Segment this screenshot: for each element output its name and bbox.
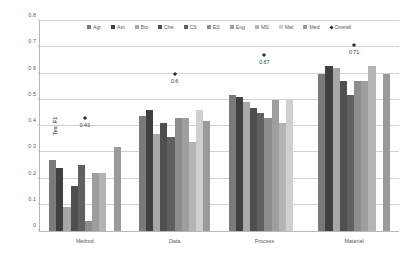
bar xyxy=(85,221,92,232)
bar xyxy=(139,116,146,232)
y-axis-tick-label: 0.7 xyxy=(28,38,36,44)
bar xyxy=(340,81,347,231)
legend-swatch-icon xyxy=(111,25,115,29)
legend-item[interactable]: Ast xyxy=(111,24,125,30)
bar-chart: Test F1 00.10.20.30.40.50.60.70.8 0.43Me… xyxy=(0,0,406,262)
bar-groups: 0.43Method0.6Data0.67Process0.71Material xyxy=(40,21,399,231)
plot-area: Test F1 00.10.20.30.40.50.60.70.8 0.43Me… xyxy=(39,21,399,232)
y-axis-tick-label: 0.3 xyxy=(28,143,36,149)
legend-label: ES xyxy=(213,24,220,30)
bar xyxy=(383,74,390,232)
legend-label: Bio xyxy=(141,24,149,30)
overall-value-label: 0.6 xyxy=(171,78,179,84)
bar xyxy=(272,100,279,231)
legend-label: Eng xyxy=(236,24,245,30)
bar xyxy=(229,95,236,232)
legend-label: Overall xyxy=(335,24,351,30)
legend-label: MS xyxy=(261,24,269,30)
bar xyxy=(279,123,286,231)
bar xyxy=(153,134,160,231)
bar-group: 0.43Method xyxy=(40,21,130,231)
bar xyxy=(196,110,203,231)
legend-swatch-icon xyxy=(303,25,307,29)
x-axis-category-label: Method xyxy=(40,238,130,244)
legend-diamond-icon xyxy=(329,25,333,29)
bar xyxy=(56,168,63,231)
bar xyxy=(203,121,210,231)
bar-group: 0.67Process xyxy=(220,21,310,231)
bar xyxy=(257,113,264,231)
bar xyxy=(146,110,153,231)
legend-item[interactable]: MS xyxy=(255,24,269,30)
x-axis-category-label: Material xyxy=(309,238,399,244)
bar xyxy=(236,97,243,231)
x-axis-category-label: Process xyxy=(220,238,310,244)
x-axis-category-label: Data xyxy=(130,238,220,244)
bar xyxy=(182,118,189,231)
bar xyxy=(354,81,361,231)
y-axis-tick-label: 0.1 xyxy=(28,196,36,202)
bar xyxy=(63,207,70,231)
y-axis-tick-label: 0.2 xyxy=(28,170,36,176)
legend-item[interactable]: ES xyxy=(207,24,220,30)
legend-swatch-icon xyxy=(87,25,91,29)
y-axis-tick-label: 0 xyxy=(33,222,36,228)
overall-value-label: 0.67 xyxy=(259,59,270,65)
bar xyxy=(286,100,293,231)
y-axis-tick-label: 0.8 xyxy=(28,12,36,18)
y-axis-tick-label: 0.4 xyxy=(28,117,36,123)
legend-swatch-icon xyxy=(207,25,211,29)
bar xyxy=(347,95,354,232)
bar xyxy=(167,137,174,232)
legend-label: Agr xyxy=(93,24,101,30)
bar-group: 0.6Data xyxy=(130,21,220,231)
legend-item[interactable]: Che xyxy=(158,24,174,30)
bar xyxy=(189,142,196,231)
overall-value-label: 0.43 xyxy=(80,122,91,128)
bar xyxy=(318,74,325,232)
legend-swatch-icon xyxy=(184,25,188,29)
bar xyxy=(250,108,257,231)
bar xyxy=(333,68,340,231)
y-axis-tick-label: 0.5 xyxy=(28,91,36,97)
bar xyxy=(99,173,106,231)
legend-item[interactable]: Mat xyxy=(279,24,294,30)
bar xyxy=(114,147,121,231)
overall-value-label: 0.71 xyxy=(349,49,360,55)
legend-label: Ast xyxy=(117,24,125,30)
legend-swatch-icon xyxy=(255,25,259,29)
legend-swatch-icon xyxy=(279,25,283,29)
bar xyxy=(175,118,182,231)
legend-label: Che xyxy=(164,24,174,30)
legend-item[interactable]: Med xyxy=(303,24,319,30)
y-axis-tick-label: 0.6 xyxy=(28,65,36,71)
legend-item[interactable]: Overall xyxy=(330,24,351,30)
legend-swatch-icon xyxy=(135,25,139,29)
legend-swatch-icon xyxy=(230,25,234,29)
bar-group-bars xyxy=(130,21,220,231)
legend-label: CS xyxy=(190,24,197,30)
bar xyxy=(368,66,375,231)
bar xyxy=(325,66,332,231)
chart-legend: AgrAstBioCheCSESEngMSMatMedOverall xyxy=(39,24,399,30)
legend-swatch-icon xyxy=(158,25,162,29)
legend-label: Med xyxy=(309,24,319,30)
bar xyxy=(49,160,56,231)
bar xyxy=(160,123,167,231)
bar xyxy=(243,102,250,231)
bar xyxy=(71,186,78,231)
bar xyxy=(361,81,368,231)
legend-label: Mat xyxy=(285,24,294,30)
bar xyxy=(264,118,271,231)
legend-item[interactable]: CS xyxy=(184,24,197,30)
bar xyxy=(92,173,99,231)
legend-item[interactable]: Bio xyxy=(135,24,149,30)
bar xyxy=(78,165,85,231)
bar-group: 0.71Material xyxy=(309,21,399,231)
legend-item[interactable]: Eng xyxy=(230,24,245,30)
overall-marker xyxy=(173,71,177,75)
legend-item[interactable]: Agr xyxy=(87,24,101,30)
